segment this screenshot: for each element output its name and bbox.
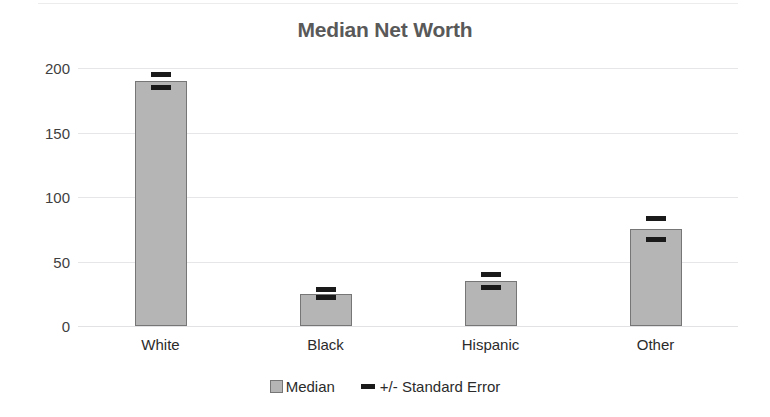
error-cap-upper-black [316, 287, 336, 292]
median-swatch-icon [270, 380, 283, 393]
x-tick-label-white: White [78, 336, 243, 353]
error-cap-upper-hispanic [481, 272, 501, 277]
error-bar-swatch-icon [361, 384, 375, 389]
x-tick-label-hispanic: Hispanic [408, 336, 573, 353]
bar-group-black [243, 68, 408, 326]
y-tick-label-0: 0 [18, 318, 70, 335]
error-cap-lower-black [316, 295, 336, 300]
y-tick-label-200: 200 [18, 60, 70, 77]
legend-item-median[interactable]: Median [270, 378, 335, 395]
bar-white[interactable] [135, 81, 187, 326]
y-tick-label-100: 100 [18, 189, 70, 206]
chart-title: Median Net Worth [0, 18, 770, 42]
plot-area [78, 68, 738, 326]
error-cap-lower-hispanic [481, 285, 501, 290]
error-cap-lower-other [646, 237, 666, 242]
bar-group-white [78, 68, 243, 326]
x-tick-label-black: Black [243, 336, 408, 353]
chart-canvas: Median Net Worth 200 150 100 50 0 [0, 0, 770, 417]
bar-group-other [573, 68, 738, 326]
legend-label-median: Median [286, 378, 335, 395]
y-tick-label-150: 150 [18, 124, 70, 141]
legend-item-standard-error[interactable]: +/- Standard Error [361, 378, 500, 395]
gridline-baseline-0 [78, 326, 738, 327]
chart-legend: Median +/- Standard Error [0, 378, 770, 395]
error-cap-upper-white [151, 72, 171, 77]
legend-label-standard-error: +/- Standard Error [380, 378, 500, 395]
scan-artifact-line [38, 3, 738, 4]
bar-other[interactable] [630, 229, 682, 326]
error-cap-upper-other [646, 216, 666, 221]
error-cap-lower-white [151, 85, 171, 90]
y-axis: 200 150 100 50 0 [12, 68, 70, 326]
y-tick-label-50: 50 [18, 253, 70, 270]
bar-group-hispanic [408, 68, 573, 326]
x-tick-label-other: Other [573, 336, 738, 353]
